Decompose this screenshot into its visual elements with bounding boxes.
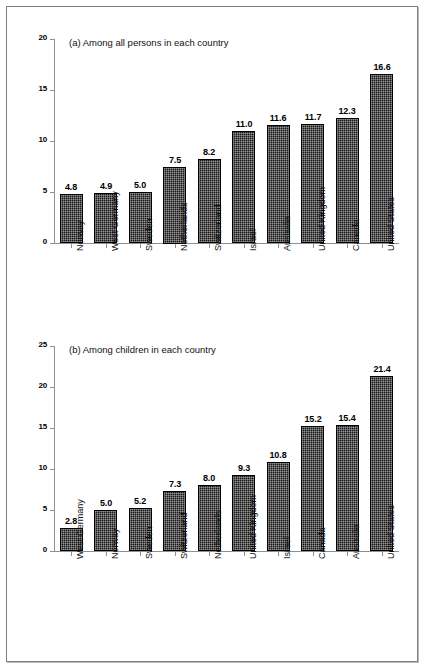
bar-value-label: 8.2 bbox=[192, 147, 226, 157]
x-tick bbox=[313, 552, 314, 556]
x-tick bbox=[382, 552, 383, 556]
bar-value-label: 5.2 bbox=[123, 496, 157, 506]
category-label: Switzerland bbox=[213, 204, 223, 251]
x-tick bbox=[347, 244, 348, 248]
y-tick-label: 15 bbox=[39, 84, 48, 93]
bar-value-label: 15.4 bbox=[330, 413, 364, 423]
panel-a-title: (a) Among all persons in each country bbox=[69, 37, 228, 48]
y-tick-label: 0 bbox=[43, 545, 47, 554]
y-tick-mark bbox=[50, 387, 54, 388]
category-label: United States bbox=[386, 505, 396, 559]
x-tick bbox=[347, 552, 348, 556]
category-label: Norway bbox=[75, 220, 85, 251]
bar-value-label: 4.8 bbox=[54, 182, 88, 192]
category-label: United Kingdom bbox=[317, 187, 327, 251]
category-label: United Kingdom bbox=[248, 495, 258, 559]
y-tick-label: 10 bbox=[39, 135, 48, 144]
x-tick bbox=[278, 244, 279, 248]
y-tick-label: 20 bbox=[39, 33, 48, 42]
y-tick-label: 15 bbox=[39, 422, 48, 431]
bar-value-label: 5.0 bbox=[123, 180, 157, 190]
x-tick bbox=[175, 244, 176, 248]
x-tick bbox=[106, 552, 107, 556]
category-label: Netherlands bbox=[213, 510, 223, 559]
x-tick bbox=[382, 244, 383, 248]
x-tick bbox=[278, 552, 279, 556]
bar-value-label: 7.5 bbox=[158, 155, 192, 165]
x-tick bbox=[71, 552, 72, 556]
x-tick bbox=[175, 552, 176, 556]
x-tick bbox=[313, 244, 314, 248]
bar-value-label: 15.2 bbox=[296, 414, 330, 424]
category-label: Canada bbox=[351, 219, 361, 251]
x-tick bbox=[140, 244, 141, 248]
y-tick-mark bbox=[50, 192, 54, 193]
y-tick-mark bbox=[50, 346, 54, 347]
x-tick bbox=[106, 244, 107, 248]
bar-value-label: 7.3 bbox=[158, 479, 192, 489]
x-tick bbox=[71, 244, 72, 248]
bar-value-label: 16.6 bbox=[365, 62, 399, 72]
figure: (a) Among all persons in each country 05… bbox=[7, 7, 417, 661]
category-label: United States bbox=[386, 197, 396, 251]
category-label: Sweden bbox=[144, 218, 154, 251]
category-label: Canada bbox=[317, 527, 327, 559]
chart-panel-a: (a) Among all persons in each country 05… bbox=[7, 23, 417, 333]
y-tick-label: 10 bbox=[39, 463, 48, 472]
bar-value-label: 8.0 bbox=[192, 473, 226, 483]
y-tick-label: 25 bbox=[39, 340, 48, 349]
y-tick-mark bbox=[50, 243, 54, 244]
figure-frame: (a) Among all persons in each country 05… bbox=[6, 6, 418, 662]
y-tick-mark bbox=[50, 141, 54, 142]
panel-b-title: (b) Among children in each country bbox=[69, 344, 216, 355]
y-tick-mark bbox=[50, 428, 54, 429]
y-tick-mark bbox=[50, 39, 54, 40]
y-tick-mark bbox=[50, 469, 54, 470]
bar-value-label: 9.3 bbox=[227, 463, 261, 473]
x-tick bbox=[209, 244, 210, 248]
x-tick bbox=[140, 552, 141, 556]
y-tick-mark bbox=[50, 551, 54, 552]
category-label: Switzerland bbox=[179, 512, 189, 559]
y-axis-a bbox=[54, 39, 55, 244]
y-tick-label: 5 bbox=[43, 186, 47, 195]
x-tick bbox=[209, 552, 210, 556]
bar bbox=[232, 131, 255, 243]
bar-value-label: 12.3 bbox=[330, 106, 364, 116]
category-label: West Germany bbox=[110, 191, 120, 251]
bar-value-label: 11.0 bbox=[227, 119, 261, 129]
y-tick-label: 5 bbox=[43, 504, 47, 513]
y-tick-mark bbox=[50, 90, 54, 91]
category-label: Netherlands bbox=[179, 202, 189, 251]
category-label: Sweden bbox=[144, 526, 154, 559]
y-tick-label: 0 bbox=[43, 237, 47, 246]
bar-value-label: 10.8 bbox=[261, 450, 295, 460]
category-label: West Germany bbox=[75, 499, 85, 559]
y-tick-label: 20 bbox=[39, 381, 48, 390]
bar-value-label: 4.9 bbox=[89, 181, 123, 191]
category-label: Israel bbox=[248, 229, 258, 251]
category-label: Australia bbox=[351, 524, 361, 559]
chart-panel-b: (b) Among children in each country 05101… bbox=[7, 332, 417, 654]
category-label: Australia bbox=[282, 216, 292, 251]
x-tick bbox=[244, 552, 245, 556]
bar-value-label: 11.6 bbox=[261, 113, 295, 123]
y-tick-mark bbox=[50, 510, 54, 511]
category-label: Israel bbox=[282, 537, 292, 559]
bar-value-label: 5.0 bbox=[89, 498, 123, 508]
bar-value-label: 21.4 bbox=[365, 364, 399, 374]
bar-value-label: 11.7 bbox=[296, 112, 330, 122]
x-tick bbox=[244, 244, 245, 248]
category-label: Norway bbox=[110, 528, 120, 559]
